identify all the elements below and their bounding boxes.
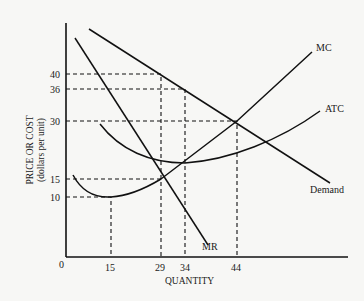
y-tick-15: 15 [50,174,60,185]
y-tick-30: 30 [50,116,60,127]
y-tick-10: 10 [50,192,60,203]
guide-36 [66,89,185,257]
mr-curve [75,38,208,245]
guide-40 [66,74,161,257]
x-tick-34: 34 [180,262,190,273]
demand-label: Demand [310,184,344,195]
x-axis-title: QUANTITY [165,276,214,286]
atc-label: ATC [325,103,344,114]
guide-10 [66,197,111,257]
x-tick-29: 29 [155,262,165,273]
y-axis-title: PRICE OR COST [25,115,35,184]
y-tick-36: 36 [50,84,60,95]
dashed-guides [66,74,237,257]
cost-price-chart: 40 36 30 15 10 0 15 29 34 44 QUANTITY PR… [0,0,364,301]
y-tick-40: 40 [50,69,60,80]
x-tick-15: 15 [105,262,115,273]
origin-label: 0 [59,259,64,270]
mr-label: MR [202,241,218,252]
mc-label: MC [316,42,332,53]
y-axis-subtitle: (dollars per unit) [36,118,47,182]
x-tick-44: 44 [231,262,241,273]
